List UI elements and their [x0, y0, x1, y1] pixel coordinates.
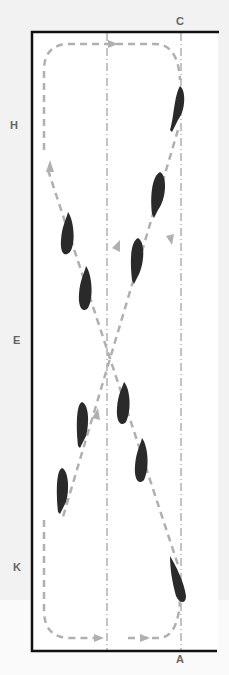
arena-letter-e: E — [13, 334, 20, 346]
arena-letter-a: A — [176, 653, 184, 665]
arena-diagram — [0, 0, 229, 675]
arena-letter-k: K — [13, 561, 21, 573]
arena-surface — [33, 33, 218, 650]
arena-letter-h: H — [10, 119, 18, 131]
arena-letter-c: C — [176, 15, 184, 27]
